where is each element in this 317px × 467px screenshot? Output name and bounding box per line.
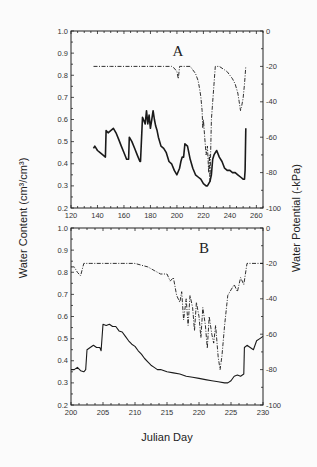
y-tick-label: 0.7: [58, 290, 68, 299]
x-tick-label: 200: [171, 211, 184, 220]
x-tick-label: 205: [97, 408, 110, 417]
x-tick-label: 225: [225, 408, 238, 417]
y-right-tick-label: -40: [266, 294, 277, 303]
x-tick-label: 210: [129, 408, 142, 417]
x-tick-label: 220: [193, 408, 206, 417]
y-tick-label: 0.8: [58, 71, 68, 80]
y-axis-left-title: Water Content (cm³/cm³): [17, 158, 29, 279]
water-content-line: [71, 324, 263, 383]
y-tick-label: 0.8: [58, 268, 68, 277]
y-tick-label: 1.0: [58, 27, 68, 36]
y-tick-label: 0.9: [58, 49, 68, 58]
y-tick-label: 0.6: [58, 115, 68, 124]
x-axis-title: Julian Day: [141, 431, 193, 443]
y-right-tick-label: -40: [266, 97, 277, 106]
y-tick-label: 0.4: [58, 356, 68, 365]
panel-b: 2002052102152202252300.20.30.40.50.60.70…: [58, 224, 281, 418]
panel-a: 1201401601802002202402600.20.30.40.50.60…: [58, 27, 281, 221]
y-right-tick-label: -100: [266, 401, 281, 410]
x-tick-label: 220: [197, 211, 210, 220]
x-tick-label: 260: [250, 211, 263, 220]
panel-b-letter: B: [199, 240, 209, 256]
x-tick-label: 180: [144, 211, 157, 220]
x-tick-label: 215: [161, 408, 174, 417]
y-axis-right-title: Water Potential (-kPa): [290, 164, 302, 272]
figure: 1201401601802002202402600.20.30.40.50.60…: [0, 0, 317, 467]
water-content-line: [94, 111, 246, 186]
panel-a-letter: A: [173, 43, 184, 59]
y-right-tick-label: -80: [266, 365, 277, 374]
panel-a-series: [94, 66, 246, 185]
y-tick-label: 0.3: [58, 181, 68, 190]
y-tick-label: 0.7: [58, 93, 68, 102]
y-tick-label: 0.4: [58, 159, 68, 168]
y-tick-label: 0.5: [58, 137, 68, 146]
y-right-tick-label: 0: [266, 224, 270, 233]
x-tick-label: 140: [91, 211, 104, 220]
y-tick-label: 1.0: [58, 224, 68, 233]
panel-a-ticks: 1201401601802002202402600.20.30.40.50.60…: [58, 27, 281, 221]
y-right-tick-label: -20: [266, 62, 277, 71]
y-tick-label: 0.5: [58, 334, 68, 343]
y-right-tick-label: -100: [266, 204, 281, 213]
y-right-tick-label: 0: [266, 27, 270, 36]
y-tick-label: 0.9: [58, 246, 68, 255]
x-tick-label: 160: [118, 211, 131, 220]
panel-b-ticks: 2002052102152202252300.20.30.40.50.60.70…: [58, 224, 281, 418]
x-tick-label: 240: [224, 211, 237, 220]
y-tick-label: 0.2: [58, 204, 68, 213]
y-right-tick-label: -60: [266, 330, 277, 339]
y-tick-label: 0.3: [58, 378, 68, 387]
y-right-tick-label: -80: [266, 168, 277, 177]
panel-a-frame: [71, 31, 263, 208]
water-potential-line: [71, 263, 263, 369]
y-right-tick-label: -20: [266, 259, 277, 268]
y-right-tick-label: -60: [266, 133, 277, 142]
y-tick-label: 0.6: [58, 312, 68, 321]
y-tick-label: 0.2: [58, 401, 68, 410]
panel-b-series: [71, 263, 263, 383]
panel-b-frame: [71, 228, 263, 405]
